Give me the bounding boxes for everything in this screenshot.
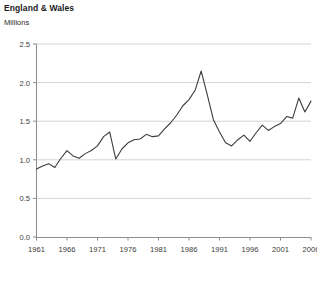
chart-plot-area bbox=[0, 0, 317, 281]
y-tick-label: 1.5 bbox=[4, 117, 30, 126]
y-tick-label: 2.5 bbox=[4, 40, 30, 49]
y-tick-label: 0.0 bbox=[4, 233, 30, 242]
y-tick-label: 0.5 bbox=[4, 194, 30, 203]
y-tick-label: 1.0 bbox=[4, 155, 30, 164]
data-series-line bbox=[37, 71, 312, 169]
y-tick-label: 2.0 bbox=[4, 78, 30, 87]
chart-figure: England & Wales Millions 0.00.51.01.52.0… bbox=[0, 0, 317, 281]
gridlines bbox=[37, 44, 312, 198]
y-tick-marks bbox=[33, 44, 37, 237]
x-tick-label: 2006 bbox=[291, 245, 317, 254]
